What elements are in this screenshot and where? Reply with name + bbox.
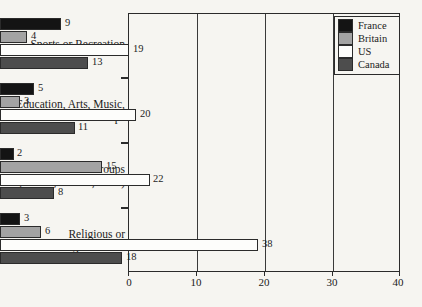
bar-value-canada-sports: 13: [92, 55, 103, 69]
legend-label-britain: Britain: [358, 32, 387, 45]
bar-value-canada-religious: 18: [126, 250, 137, 264]
gridline-10: [197, 14, 198, 271]
x-axis-label-0: 0: [126, 276, 132, 288]
bar-value-us-education: 20: [140, 107, 151, 121]
bar-canada-education: [0, 122, 75, 134]
bar-britain-sports: [0, 31, 27, 43]
bar-value-france-youth: 2: [17, 146, 22, 160]
bar-value-france-religious: 3: [24, 211, 29, 225]
bar-value-britain-education: 3: [24, 94, 29, 108]
x-axis-label-20: 20: [259, 276, 270, 288]
legend-item-britain: Britain: [338, 32, 396, 45]
legend-label-canada: Canada: [358, 58, 390, 71]
x-axis-label-40: 40: [393, 276, 404, 288]
y-axis-tick: [121, 207, 128, 209]
bar-us-education: [0, 109, 136, 121]
bar-value-us-youth: 22: [153, 172, 164, 186]
bar-value-britain-religious: 6: [45, 224, 50, 238]
x-axis-label-30: 30: [327, 276, 338, 288]
bar-canada-sports: [0, 57, 88, 69]
bar-value-britain-sports: 4: [31, 29, 36, 43]
legend-item-france: France: [338, 19, 396, 32]
bar-value-canada-education: 11: [78, 120, 88, 134]
legend-swatch-canada-icon: [338, 58, 353, 71]
legend-item-canada: Canada: [338, 58, 396, 71]
x-axis-label-10: 10: [191, 276, 202, 288]
legend-label-us: US: [358, 45, 371, 58]
chart-legend: France Britain US Canada: [334, 16, 400, 75]
bar-britain-education: [0, 96, 20, 108]
bar-britain-youth: [0, 161, 102, 173]
legend-swatch-britain-icon: [338, 32, 353, 45]
y-axis-tick: [121, 77, 128, 79]
legend-swatch-france-icon: [338, 19, 353, 32]
legend-swatch-us-icon: [338, 45, 353, 58]
bar-value-us-religious: 38: [262, 237, 273, 251]
bar-us-sports: [0, 44, 129, 56]
bar-chart: Sports or Recreation 9 4 19 13 Education…: [0, 0, 422, 307]
bar-value-britain-youth: 15: [106, 159, 117, 173]
bar-value-us-sports: 19: [133, 42, 144, 56]
legend-item-us: US: [338, 45, 396, 58]
bar-canada-religious: [0, 252, 122, 264]
bar-canada-youth: [0, 187, 54, 199]
legend-label-france: France: [358, 19, 387, 32]
y-axis-tick: [121, 142, 128, 144]
bar-france-religious: [0, 213, 20, 225]
bar-france-youth: [0, 148, 14, 160]
bar-value-france-sports: 9: [65, 16, 70, 30]
bar-britain-religious: [0, 226, 41, 238]
gridline-20: [265, 14, 266, 271]
bar-value-canada-youth: 8: [58, 185, 63, 199]
bar-value-france-education: 5: [38, 81, 43, 95]
bar-us-youth: [0, 174, 150, 186]
